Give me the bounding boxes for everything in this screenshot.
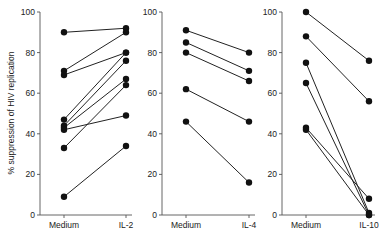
- data-point: [246, 49, 252, 55]
- data-point: [303, 80, 309, 86]
- data-point: [123, 29, 129, 35]
- data-point: [123, 76, 129, 82]
- data-point: [123, 112, 129, 118]
- data-point: [366, 58, 372, 64]
- y-tick-label: 20: [26, 169, 36, 179]
- x-category-label: Medium: [49, 220, 79, 230]
- y-tick-label: 0: [272, 210, 277, 220]
- data-line: [186, 30, 249, 52]
- data-point: [366, 196, 372, 202]
- y-tick-label: 20: [148, 169, 158, 179]
- y-tick-label: 100: [143, 7, 157, 17]
- data-point: [303, 9, 309, 15]
- data-line: [64, 146, 126, 197]
- y-tick-label: 40: [26, 129, 36, 139]
- x-category-label: Medium: [291, 220, 321, 230]
- x-category-label: IL-4: [242, 220, 257, 230]
- data-point: [183, 39, 189, 45]
- data-line: [186, 122, 249, 183]
- data-line: [64, 116, 126, 130]
- y-tick-label: 100: [263, 7, 277, 17]
- data-point: [61, 127, 67, 133]
- data-point: [246, 78, 252, 84]
- y-tick-label: 100: [21, 7, 35, 17]
- data-point: [183, 27, 189, 33]
- data-point: [303, 33, 309, 39]
- data-point: [183, 49, 189, 55]
- y-tick-label: 60: [26, 88, 36, 98]
- y-tick-label: 80: [268, 48, 278, 58]
- data-line: [64, 53, 126, 75]
- data-point: [183, 86, 189, 92]
- data-point: [123, 58, 129, 64]
- data-point: [246, 68, 252, 74]
- y-tick-label: 60: [268, 88, 278, 98]
- data-line: [306, 130, 369, 215]
- data-line: [64, 28, 126, 32]
- data-point: [246, 179, 252, 185]
- data-line: [306, 83, 369, 215]
- data-point: [366, 212, 372, 218]
- data-point: [303, 60, 309, 66]
- data-point: [123, 143, 129, 149]
- y-tick-label: 80: [26, 48, 36, 58]
- y-tick-label: 40: [148, 129, 158, 139]
- data-point: [61, 72, 67, 78]
- data-line: [306, 12, 369, 61]
- y-tick-label: 60: [148, 88, 158, 98]
- data-point: [61, 116, 67, 122]
- x-category-label: IL-2: [119, 220, 134, 230]
- data-point: [246, 118, 252, 124]
- x-category-label: IL-10: [359, 220, 379, 230]
- data-point: [303, 127, 309, 133]
- data-line: [64, 32, 126, 71]
- data-point: [123, 82, 129, 88]
- x-category-label: Medium: [171, 220, 201, 230]
- data-point: [123, 49, 129, 55]
- y-tick-label: 40: [268, 129, 278, 139]
- chart-area: 020406080100MediumIL-2020406080100Medium…: [0, 0, 386, 237]
- data-line: [186, 89, 249, 121]
- data-point: [61, 145, 67, 151]
- y-tick-label: 80: [148, 48, 158, 58]
- data-point: [183, 118, 189, 124]
- data-point: [61, 29, 67, 35]
- data-line: [306, 36, 369, 101]
- y-tick-label: 20: [268, 169, 278, 179]
- data-point: [61, 194, 67, 200]
- y-tick-label: 0: [30, 210, 35, 220]
- data-point: [366, 98, 372, 104]
- y-tick-label: 0: [152, 210, 157, 220]
